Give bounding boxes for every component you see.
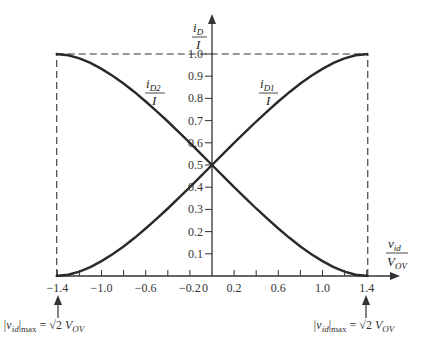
transfer-characteristic-chart: −1.4−1.0−0.6−0.200.20.61.01.4 0.10.20.30… (0, 0, 421, 346)
svg-text:VOV: VOV (387, 254, 408, 271)
annotation-left: |vid|max = √2 VOV (3, 318, 86, 334)
svg-text:0: 0 (202, 281, 208, 295)
svg-text:I: I (265, 93, 271, 108)
svg-text:0.6: 0.6 (271, 281, 286, 295)
svg-text:1.4: 1.4 (359, 281, 374, 295)
svg-text:−1.4: −1.4 (46, 281, 68, 295)
svg-text:vid: vid (388, 236, 401, 253)
svg-text:iD2: iD2 (146, 76, 161, 93)
svg-text:iD: iD (193, 20, 204, 37)
svg-text:0.2: 0.2 (227, 281, 242, 295)
svg-text:0.8: 0.8 (188, 91, 203, 105)
svg-text:−1.0: −1.0 (91, 281, 113, 295)
x-axis-ticks: −1.4−1.0−0.6−0.200.20.61.01.4 (46, 270, 374, 295)
svg-text:−0.6: −0.6 (135, 281, 157, 295)
svg-text:1.0: 1.0 (315, 281, 330, 295)
svg-text:0.7: 0.7 (188, 114, 203, 128)
svg-text:−0.2: −0.2 (179, 281, 201, 295)
x-axis-label: vid VOV (386, 236, 408, 271)
svg-text:0.3: 0.3 (188, 202, 203, 216)
svg-text:0.1: 0.1 (188, 247, 203, 261)
svg-text:I: I (151, 93, 157, 108)
svg-text:iD1: iD1 (260, 76, 275, 93)
svg-text:I: I (195, 37, 201, 52)
annotation-right: |vid|max = √2 VOV (313, 318, 396, 334)
svg-text:0.2: 0.2 (188, 225, 203, 239)
svg-text:0.5: 0.5 (188, 158, 203, 172)
svg-text:0.9: 0.9 (188, 69, 203, 83)
